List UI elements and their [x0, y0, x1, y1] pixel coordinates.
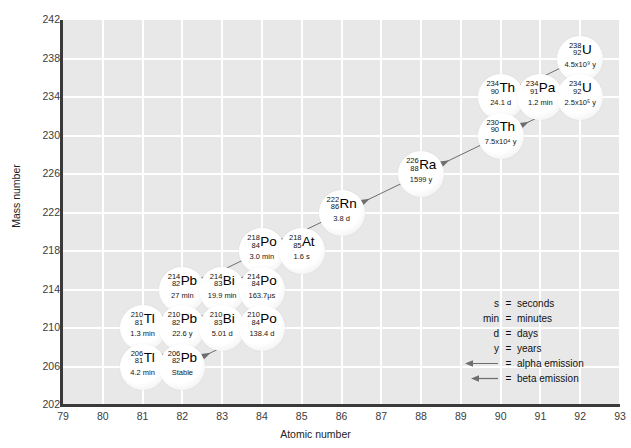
legend-value: seconds — [513, 298, 554, 309]
legend-item: y=years — [455, 341, 595, 356]
half-life-label: 4.5x10⁹ y — [547, 60, 613, 69]
y-tick-label: 214 — [0, 283, 66, 295]
nuclide-At-218[interactable]: 21885At1.6 s — [269, 231, 335, 271]
atomic-number: 85 — [289, 242, 302, 250]
decay-chain-chart: 23892U4.5x10⁹ y23490Th24.1 d23491Pa1.2 m… — [0, 0, 631, 448]
nuclide-Th-230[interactable]: 23090Th7.5x10⁴ y — [468, 116, 534, 156]
nuclide-numbers: 21885 — [289, 234, 302, 249]
nuclide-numbers: 22286 — [327, 196, 340, 211]
nuclide-symbol: 23090Th — [468, 118, 534, 134]
atomic-number: 83 — [210, 280, 223, 288]
chart-legend: s=secondsmin=minutesd=daysy=years=alpha … — [455, 296, 595, 386]
nuclide-symbol: 20682Pb — [149, 349, 215, 365]
nuclide-Po-214[interactable]: 21484Po163.7μs — [229, 270, 295, 310]
half-life-label: 7.5x10⁴ y — [468, 137, 534, 146]
y-tick-label: 234 — [0, 90, 66, 102]
legend-value: days — [513, 328, 538, 339]
x-tick-label: 81 — [128, 410, 158, 422]
atomic-number: 81 — [131, 319, 144, 327]
gridline-horizontal — [63, 135, 620, 137]
x-tick-label: 92 — [565, 410, 595, 422]
legend-key: min — [455, 313, 504, 324]
legend-equals: = — [504, 343, 513, 354]
legend-equals: = — [504, 373, 513, 384]
x-tick-label: 88 — [406, 410, 436, 422]
nuclide-Rn-222[interactable]: 22286Rn3.8 d — [309, 193, 375, 233]
element-symbol: Rn — [340, 197, 357, 211]
nuclide-symbol: 21484Po — [229, 272, 295, 288]
atomic-number: 84 — [247, 280, 260, 288]
atomic-number: 91 — [526, 88, 539, 96]
legend-value: years — [513, 343, 541, 354]
nuclide-symbol: 23492U — [547, 79, 613, 95]
x-tick-label: 93 — [605, 410, 631, 422]
nuclide-numbers: 21081 — [131, 311, 144, 326]
atomic-number: 84 — [247, 242, 260, 250]
atomic-number: 82 — [168, 357, 181, 365]
nuclide-numbers: 22688 — [406, 157, 419, 172]
y-axis-title: Mass number — [10, 146, 22, 246]
atomic-number: 81 — [131, 357, 144, 365]
y-tick-label: 210 — [0, 321, 66, 333]
element-symbol: At — [302, 235, 314, 249]
x-tick-label: 90 — [486, 410, 516, 422]
atomic-number: 92 — [569, 88, 582, 96]
nuclide-numbers: 21483 — [210, 273, 223, 288]
nuclide-symbol: 22688Ra — [388, 156, 454, 172]
legend-item: min=minutes — [455, 311, 595, 326]
half-life-label: 138.4 d — [229, 329, 295, 338]
y-tick-label: 230 — [0, 129, 66, 141]
nuclide-numbers: 20682 — [168, 350, 181, 365]
element-symbol: U — [582, 43, 592, 57]
nuclide-numbers: 23892 — [569, 42, 582, 57]
nuclide-U-234[interactable]: 23492U2.5x10⁵ y — [547, 77, 613, 117]
legend-value: minutes — [513, 313, 552, 324]
x-tick-label: 85 — [287, 410, 317, 422]
nuclide-Po-210[interactable]: 21084Po138.4 d — [229, 308, 295, 348]
x-tick-label: 86 — [327, 410, 357, 422]
x-tick-label: 89 — [446, 410, 476, 422]
nuclide-numbers: 20681 — [131, 350, 144, 365]
legend-equals: = — [504, 313, 513, 324]
nuclide-numbers: 21482 — [168, 273, 181, 288]
nuclide-U-238[interactable]: 23892U4.5x10⁹ y — [547, 39, 613, 79]
half-life-label: 1.6 s — [269, 252, 335, 261]
beta-arrow-icon — [455, 374, 504, 383]
nuclide-Ra-226[interactable]: 22688Ra1599 y — [388, 154, 454, 194]
x-tick-label: 84 — [247, 410, 277, 422]
legend-equals: = — [504, 298, 513, 309]
legend-key: s — [455, 298, 504, 309]
gridline-horizontal — [63, 173, 620, 175]
x-tick-label: 82 — [167, 410, 197, 422]
x-tick-label: 83 — [207, 410, 237, 422]
element-symbol: U — [582, 81, 592, 95]
gridline-horizontal — [63, 289, 620, 291]
legend-value: beta emission — [513, 373, 579, 384]
x-axis-spine — [60, 404, 620, 407]
y-tick-label: 206 — [0, 360, 66, 372]
x-tick-label: 91 — [525, 410, 555, 422]
half-life-label: 1599 y — [388, 175, 454, 184]
legend-item: =beta emission — [455, 371, 595, 386]
atomic-number: 84 — [247, 319, 260, 327]
legend-item: =alpha emission — [455, 356, 595, 371]
legend-equals: = — [504, 358, 513, 369]
element-symbol: Ra — [419, 158, 436, 172]
nuclide-numbers: 21884 — [247, 234, 260, 249]
legend-value: alpha emission — [513, 358, 584, 369]
x-axis-title: Atomic number — [0, 428, 631, 440]
atomic-number: 82 — [168, 319, 181, 327]
half-life-label: 3.8 d — [309, 214, 375, 223]
alpha-arrow-icon — [455, 359, 504, 368]
gridline-horizontal — [63, 250, 620, 252]
nuclide-symbol: 21885At — [269, 233, 335, 249]
legend-item: s=seconds — [455, 296, 595, 311]
nuclide-numbers: 21082 — [168, 311, 181, 326]
nuclide-symbol: 21084Po — [229, 310, 295, 326]
element-symbol: Th — [499, 120, 514, 134]
nuclide-numbers: 23491 — [526, 80, 539, 95]
nuclide-Pb-206[interactable]: 20682PbStable — [149, 347, 215, 387]
x-tick-label: 80 — [88, 410, 118, 422]
atomic-number: 82 — [168, 280, 181, 288]
legend-item: d=days — [455, 326, 595, 341]
